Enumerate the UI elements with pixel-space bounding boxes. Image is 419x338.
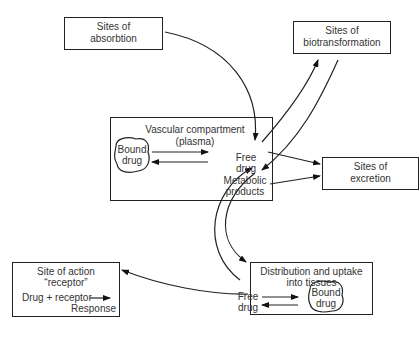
excretion-label-2: excretion bbox=[322, 173, 419, 185]
tissue-free-drug-label-2: drug bbox=[236, 302, 260, 314]
absorption-label-1: Sites of bbox=[64, 21, 163, 33]
biotransformation-label-2: biotransformation bbox=[293, 37, 391, 49]
vascular-title-2: (plasma) bbox=[145, 136, 245, 148]
site-of-action-label-2: “receptor” bbox=[12, 277, 120, 289]
arrow-tissues-to-site-of-action bbox=[122, 270, 248, 294]
plasma-bound-drug-label-2: drug bbox=[116, 155, 148, 167]
response-label: Response bbox=[70, 303, 116, 315]
metabolic-products-label-2: products bbox=[222, 186, 268, 198]
vascular-title-1: Vascular compartment bbox=[145, 124, 245, 136]
tissue-bound-drug-label-2: drug bbox=[310, 298, 342, 310]
absorption-label-2: absorbtion bbox=[64, 33, 163, 45]
biotransformation-label-1: Sites of bbox=[293, 25, 391, 37]
plasma-free-drug-label-2: drug bbox=[234, 163, 258, 175]
arrow-metabolites-to-excretion bbox=[270, 176, 320, 184]
excretion-label-1: Sites of bbox=[322, 161, 419, 173]
